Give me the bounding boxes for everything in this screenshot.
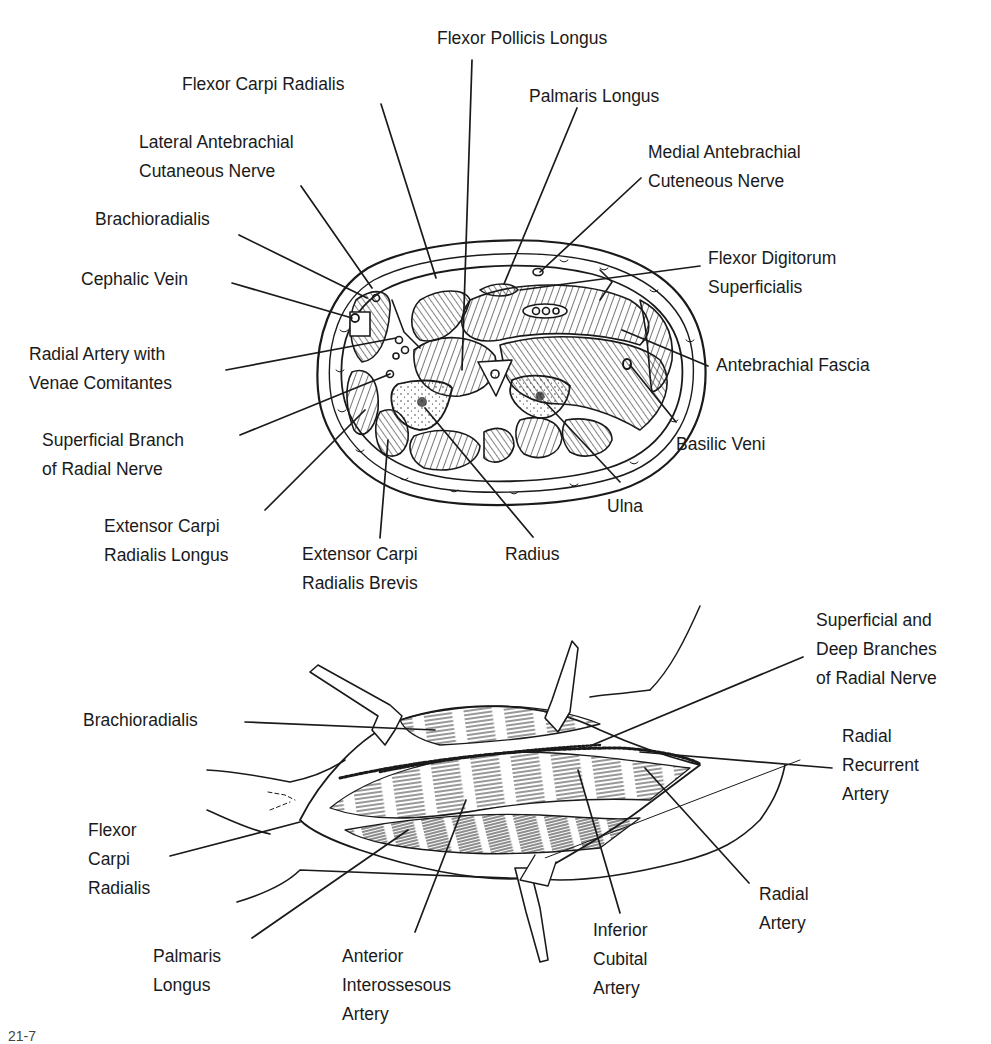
label-brachioradialis-lower: Brachioradialis	[83, 706, 198, 735]
label-palmaris-longus-lower: Palmaris Longus	[153, 942, 221, 1000]
label-superficial-deep-branches-radial-nerve: Superficial and Deep Branches of Radial …	[816, 606, 937, 693]
label-anterior-interossesous-artery: Anterior Interossesous Artery	[342, 942, 451, 1029]
label-palmaris-longus: Palmaris Longus	[529, 82, 659, 111]
label-antebrachial-fascia: Antebrachial Fascia	[716, 351, 870, 380]
label-extensor-carpi-radialis-longus: Extensor Carpi Radialis Longus	[104, 512, 229, 570]
label-flexor-digitorum-superficialis: Flexor Digitorum Superficialis	[708, 244, 836, 302]
label-radial-artery-venae-comitantes: Radial Artery with Venae Comitantes	[29, 340, 172, 398]
label-brachioradialis-upper: Brachioradialis	[95, 205, 210, 234]
label-inferior-cubital-artery: Inferior Cubital Artery	[593, 916, 647, 1003]
figure-number: 21-7	[8, 1028, 36, 1044]
label-flexor-pollicis-longus: Flexor Pollicis Longus	[437, 24, 607, 53]
label-basilic-veni: Basilic Veni	[676, 430, 766, 459]
label-ulna: Ulna	[607, 492, 643, 521]
label-radius: Radius	[505, 540, 559, 569]
label-superficial-branch-radial-nerve: Superficial Branch of Radial Nerve	[42, 426, 184, 484]
label-medial-antebrachial-cuteneous-nerve: Medial Antebrachial Cuteneous Nerve	[648, 138, 801, 196]
label-radial-recurrent-artery: Radial Recurrent Artery	[842, 722, 919, 809]
label-cephalic-vein: Cephalic Vein	[81, 265, 188, 294]
label-flexor-carpi-radialis-lower: Flexor Carpi Radialis	[88, 816, 150, 903]
label-extensor-carpi-radialis-brevis: Extensor Carpi Radialis Brevis	[302, 540, 418, 598]
cross-section-drawing	[317, 240, 705, 505]
label-radial-artery-lower: Radial Artery	[759, 880, 809, 938]
label-lateral-antebrachial-cutaneous-nerve: Lateral Antebrachial Cutaneous Nerve	[139, 128, 294, 186]
label-flexor-carpi-radialis: Flexor Carpi Radialis	[182, 70, 344, 99]
